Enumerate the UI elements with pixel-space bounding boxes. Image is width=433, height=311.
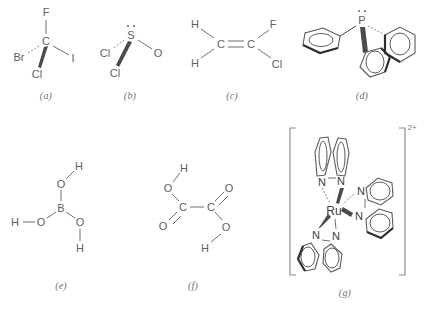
panel-label-d: (d) [342, 90, 382, 101]
atom-n-g-1: N [318, 177, 326, 188]
bond-n-ru-bottom-right [335, 219, 336, 229]
panel-label-f: (f) [173, 280, 213, 291]
atom-n-g-6: N [332, 231, 340, 242]
ligand-bipyridine-top [315, 137, 349, 178]
bracket-right [399, 128, 405, 275]
panel-label-b: (b) [110, 90, 150, 101]
bond-n-ru-right-lower-wedge [341, 207, 353, 217]
ligand-bipyridine-right [365, 178, 393, 238]
bond-n-ru-top-left-dashed [322, 188, 330, 203]
ligand-bipyridine-bottom-left [298, 240, 342, 272]
atom-n-g-5: N [312, 230, 320, 241]
atom-ru-g: Ru [326, 206, 341, 217]
molecular-structures-figure: F C Br Cl I S Cl Cl O H H C C F Cl [0, 0, 433, 311]
panel-label-c: (c) [212, 90, 252, 101]
panel-label-e: (e) [41, 280, 81, 291]
charge-label-2plus: 2+ [407, 123, 416, 132]
bond-n-ru-top-right-wedge [336, 188, 344, 204]
atom-n-g-4: N [355, 211, 363, 222]
structure-g-bonds [0, 0, 433, 311]
bracket-left [290, 128, 296, 275]
atom-n-g-2: N [337, 176, 345, 187]
atom-n-g-3: N [357, 186, 365, 197]
panel-label-g: (g) [325, 287, 365, 298]
bond-n-ru-right-upper-dashed [343, 194, 354, 204]
panel-label-a: (a) [26, 90, 66, 101]
bond-bipy-bottom-link [322, 240, 330, 241]
